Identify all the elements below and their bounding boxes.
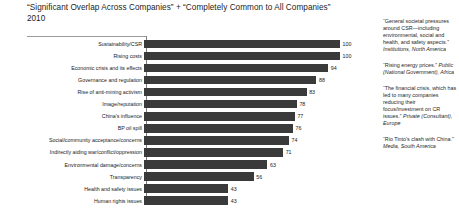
bar-value-label: 43 [228,198,236,204]
bar-row: Sustainability/CSR100 [27,38,357,50]
bar-value-label: 100 [340,41,351,47]
bar-category-label: China's influence [27,113,144,119]
bar-fill [144,196,228,204]
top-rule-divider [27,36,147,37]
bar-value-label: 83 [307,89,315,95]
bar-track: 74 [144,134,357,146]
bar-category-label: Environmental damage/concerns [27,162,144,168]
annotation-quotes-column: “General societal pressures around CSR—i… [383,18,457,158]
bar-fill [144,136,289,144]
bar-row: BP oil spill76 [27,122,357,134]
bar-fill [144,148,283,156]
bar-row: Governance and regulation88 [27,74,357,86]
bar-fill [144,172,254,180]
annotation-source: Media, South America [383,143,436,149]
bar-fill [144,52,340,60]
bar-row: Economic crisis and its effects94 [27,62,357,74]
bar-track: 76 [144,122,357,134]
bar-row: Environmental damage/concerns63 [27,159,357,171]
bar-fill [144,88,307,96]
chart-title: “Significant Overlap Across Companies” +… [27,3,357,14]
bar-fill [144,64,328,72]
bar-value-label: 74 [289,137,297,143]
annotation-quote-text: “Rising energy prices.” [383,62,438,68]
bar-category-label: Image/reputation [27,101,144,107]
annotation-quote: “Rising energy prices.” Public (National… [383,62,457,76]
annotation-quote: “Rio Tinto's clash with China.” Media, S… [383,136,457,150]
bar-row: Transparency56 [27,171,357,183]
annotation-quote: “The financial crisis, which has led to … [383,85,457,128]
bar-category-label: Social/community acceptance/concerns [27,137,144,143]
bar-fill [144,184,228,192]
bar-row: Rise of anti-mining activism83 [27,86,357,98]
bar-track: 71 [144,146,357,158]
bar-category-label: Human rights issues [27,198,144,204]
bar-row: Social/community acceptance/concerns74 [27,134,357,146]
bar-chart-plot-area: Sustainability/CSR100Rising costs100Econ… [27,36,357,216]
bar-track: 100 [144,50,357,62]
annotation-quote-text: “General societal pressures around CSR—i… [383,18,449,45]
bar-category-label: Rising costs [27,53,144,59]
bar-row: Image/reputation78 [27,98,357,110]
bar-fill [144,124,293,132]
bar-value-label: 77 [295,113,303,119]
bar-fill [144,76,316,84]
bar-row: Indirectly aiding war/conflict/oppressio… [27,146,357,158]
bar-value-label: 76 [293,125,301,131]
bar-row: Health and safety issues43 [27,183,357,195]
annotation-quote: “General societal pressures around CSR—i… [383,18,457,53]
bar-fill [144,40,340,48]
bar-category-label: BP oil spill [27,125,144,131]
bar-track: 43 [144,195,357,207]
bar-row: Human rights issues43 [27,195,357,207]
bar-category-label: Health and safety issues [27,186,144,192]
bar-value-label: 71 [283,149,291,155]
bar-value-label: 63 [267,162,275,168]
bar-track: 63 [144,159,357,171]
bar-fill [144,100,297,108]
bar-fill [144,112,295,120]
annotation-quote-text: “Rio Tinto's clash with China.” [383,136,454,142]
bar-category-label: Transparency [27,174,144,180]
bar-value-label: 88 [316,77,324,83]
bar-value-label: 56 [254,174,262,180]
bar-value-label: 94 [328,65,336,71]
bar-value-label: 43 [228,186,236,192]
bar-row: Rising costs100 [27,50,357,62]
bar-row: China's influence77 [27,110,357,122]
chart-header: “Significant Overlap Across Companies” +… [27,3,357,24]
bar-track: 77 [144,110,357,122]
bar-track: 78 [144,98,357,110]
bar-track: 83 [144,86,357,98]
bar-value-label: 100 [340,53,351,59]
bar-fill [144,160,267,168]
annotation-source: Institutions, North America [383,46,446,52]
bar-category-label: Economic crisis and its effects [27,65,144,71]
bar-track: 56 [144,171,357,183]
bar-category-label: Rise of anti-mining activism [27,89,144,95]
bar-track: 88 [144,74,357,86]
bar-category-label: Sustainability/CSR [27,41,144,47]
bar-value-label: 78 [297,101,305,107]
bar-track: 94 [144,62,357,74]
bar-category-label: Indirectly aiding war/conflict/oppressio… [27,149,144,155]
bar-category-label: Governance and regulation [27,77,144,83]
bar-track: 100 [144,38,357,50]
chart-subtitle-year: 2010 [27,14,357,25]
bar-track: 43 [144,183,357,195]
